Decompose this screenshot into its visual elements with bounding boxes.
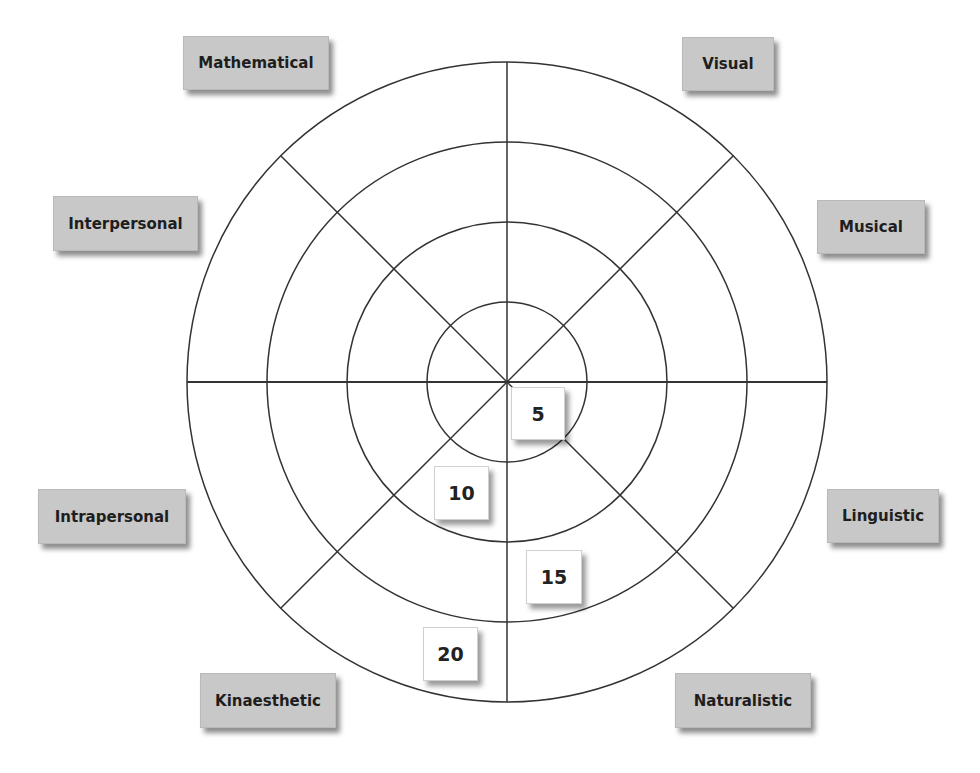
label-intrapersonal: Intrapersonal <box>38 489 186 544</box>
scale-value-20: 20 <box>423 627 478 681</box>
label-linguistic: Linguistic <box>827 489 939 543</box>
intelligence-wheel <box>0 0 980 773</box>
label-mathematical: Mathematical <box>183 36 329 90</box>
label-musical: Musical <box>817 200 925 254</box>
label-visual: Visual <box>682 37 774 91</box>
label-interpersonal: Interpersonal <box>53 196 198 251</box>
label-kinaesthetic: Kinaesthetic <box>200 673 336 728</box>
scale-value-15: 15 <box>526 550 582 604</box>
label-naturalistic: Naturalistic <box>675 673 811 728</box>
scale-value-5: 5 <box>511 387 565 440</box>
scale-value-10: 10 <box>434 466 489 520</box>
